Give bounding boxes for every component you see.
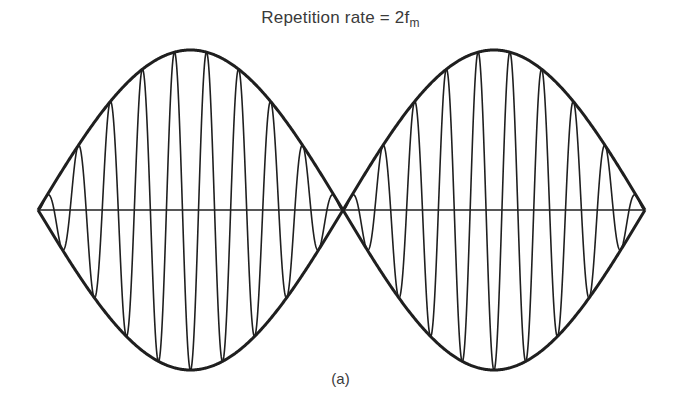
carrier-lobe-1: [38, 52, 343, 370]
carrier-lobe-2: [343, 52, 645, 370]
am-waveform-diagram: [0, 0, 681, 413]
figure-caption: (a): [0, 370, 681, 387]
envelope-lower-lobe-2: [343, 210, 645, 370]
envelope-lower-lobe-1: [38, 210, 343, 370]
